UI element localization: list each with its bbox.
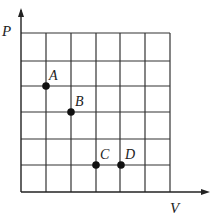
y-axis-arrow-icon <box>18 8 24 17</box>
y-axis-label: P <box>1 23 11 39</box>
svg-text:D: D <box>124 147 135 162</box>
x-axis-label: V <box>170 200 181 216</box>
svg-text:A: A <box>48 68 58 83</box>
x-axis-arrow-icon <box>201 189 210 195</box>
svg-text:C: C <box>100 147 110 162</box>
svg-text:B: B <box>75 94 84 109</box>
pv-diagram: P V A B C D <box>0 0 222 216</box>
